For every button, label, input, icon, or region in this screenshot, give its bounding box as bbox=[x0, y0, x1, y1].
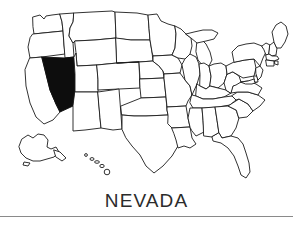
state-wyoming bbox=[75, 38, 117, 66]
state-arkansas bbox=[167, 106, 190, 128]
state-south-dakota bbox=[116, 38, 153, 63]
state-alaska-inset bbox=[19, 134, 59, 161]
state-florida bbox=[212, 133, 250, 178]
state-new-jersey bbox=[256, 66, 263, 80]
state-minnesota bbox=[148, 14, 176, 56]
hawaii-island-kauai bbox=[85, 154, 88, 157]
state-oklahoma bbox=[121, 97, 168, 116]
hawaii-island-maui bbox=[100, 164, 104, 167]
hawaii-island-oahu bbox=[90, 158, 94, 161]
hawaii-island-molokai bbox=[95, 161, 100, 164]
state-alaska-panhandle bbox=[54, 150, 66, 161]
state-rhode-island bbox=[275, 61, 278, 65]
map-caption-nevada: NEVADA bbox=[0, 190, 293, 212]
map-svg bbox=[0, 0, 293, 196]
state-kansas bbox=[140, 78, 166, 98]
state-connecticut bbox=[266, 60, 274, 66]
state-oregon bbox=[28, 31, 65, 58]
us-state-map bbox=[0, 0, 293, 196]
state-colorado bbox=[97, 62, 140, 90]
map-page: NEVADA bbox=[0, 0, 293, 230]
state-montana bbox=[69, 11, 116, 43]
state-arizona bbox=[73, 92, 101, 131]
state-new-mexico bbox=[98, 89, 122, 130]
bottom-divider bbox=[0, 216, 293, 217]
hawaii-island-big-island bbox=[104, 169, 110, 175]
state-north-dakota bbox=[115, 12, 150, 40]
alaska-aleutian-1 bbox=[23, 162, 30, 166]
